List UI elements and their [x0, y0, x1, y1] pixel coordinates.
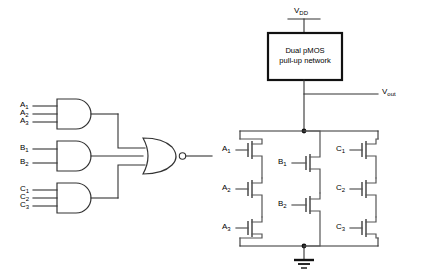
pullup-line-2: pull-up network: [268, 56, 342, 66]
vout-label: Vout: [382, 88, 396, 96]
input-label-a3: A3: [20, 117, 29, 125]
input-label-b1: B1: [20, 144, 29, 152]
branch-c-transistors: [350, 139, 378, 238]
pulldown-rails: [240, 131, 378, 248]
pullup-line-1: Dual pMOS: [268, 46, 342, 56]
vdd-supply: [288, 19, 320, 33]
schematic-drawing: [0, 0, 422, 280]
and-gate-c: [33, 183, 118, 213]
branch-a-transistors: [236, 139, 262, 238]
input-label-b2: B2: [20, 158, 29, 166]
transistor-label-a3: A3: [222, 223, 231, 231]
pmos-pullup-box-label: Dual pMOS pull-up network: [268, 46, 342, 66]
transistor-label-a2: A2: [222, 184, 231, 192]
ground-symbol: [294, 246, 314, 268]
transistor-label-b2: B2: [278, 200, 287, 208]
transistor-label-a1: A1: [222, 145, 231, 153]
transistor-label-c1: C1: [336, 145, 345, 153]
input-label-c3: C3: [20, 201, 29, 209]
and-gate-a: [33, 99, 118, 129]
transistor-label-c3: C3: [336, 223, 345, 231]
schematic-canvas: A1 A2 A3 B1 B2 C1 C2 C3 VDD Vout Dual pM…: [0, 0, 422, 280]
transistor-label-c2: C2: [336, 184, 345, 192]
output-net: [302, 80, 378, 133]
and-gate-b: [33, 141, 143, 171]
transistor-label-b1: B1: [278, 158, 287, 166]
vdd-label: VDD: [294, 7, 308, 15]
branch-b-transistors: [292, 131, 320, 246]
nor-gate: [143, 138, 212, 174]
